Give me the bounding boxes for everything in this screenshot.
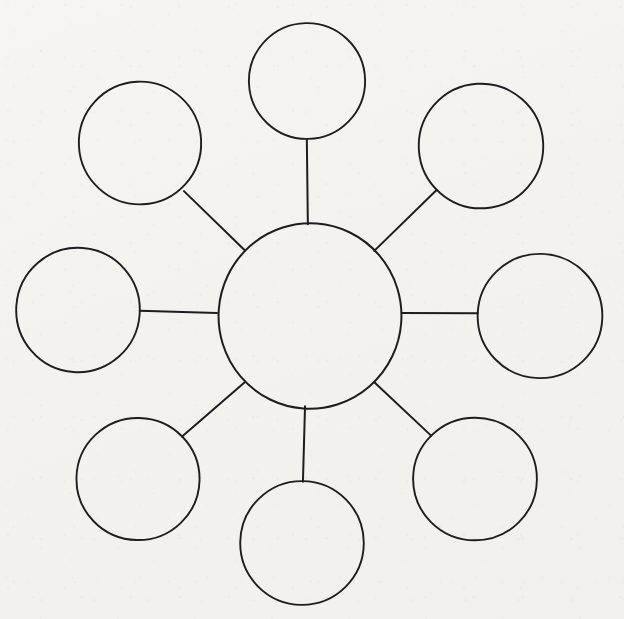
node-top-circle[interactable] <box>247 22 366 141</box>
nodes-layer <box>12 22 604 606</box>
node-lower-right-circle[interactable] <box>413 417 538 540</box>
node-upper-left-circle[interactable] <box>76 79 204 207</box>
link-upper-left <box>184 191 245 250</box>
link-lower-right <box>374 382 431 436</box>
link-top <box>307 140 308 224</box>
diagram-canvas <box>0 0 624 619</box>
node-left-circle[interactable] <box>12 243 144 376</box>
node-right-circle[interactable] <box>476 253 603 380</box>
node-bottom-circle[interactable] <box>240 481 365 606</box>
link-lower-left <box>182 382 245 437</box>
link-bottom <box>303 406 305 481</box>
node-lower-left-circle[interactable] <box>75 417 201 542</box>
links-layer <box>140 140 478 482</box>
bubble-map-svg <box>0 0 624 619</box>
link-upper-right <box>374 190 437 251</box>
link-left <box>140 311 217 313</box>
